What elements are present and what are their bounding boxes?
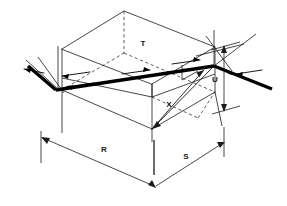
label-t: T	[141, 39, 146, 48]
diagram-canvas: T U X R S	[0, 0, 287, 206]
label-u: U	[212, 75, 218, 84]
diagram-background	[0, 0, 287, 206]
label-r: R	[101, 145, 107, 154]
label-s: S	[183, 152, 189, 161]
optical-cavity-diagram: T U X R S	[0, 0, 287, 206]
label-x: X	[166, 100, 172, 109]
